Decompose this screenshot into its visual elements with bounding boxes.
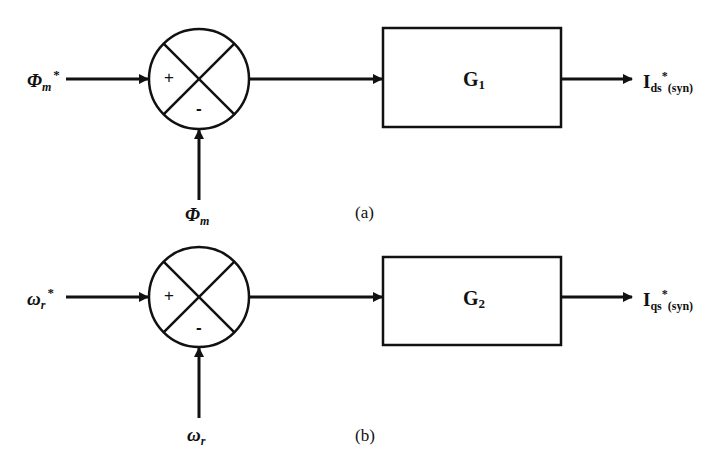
plus-sign-a: + (164, 69, 174, 86)
subscript: ds (650, 81, 661, 95)
output-label-b: Iqs*(syn) (643, 288, 693, 312)
feedback-input-label-b: ωr (187, 425, 205, 447)
panel-b (66, 247, 632, 418)
minus-sign-a: - (196, 100, 202, 117)
caption-a: (a) (355, 204, 374, 221)
block-label-g2: G2 (463, 288, 485, 310)
caption-b: (b) (355, 427, 375, 444)
plus-sign-b: + (164, 287, 174, 304)
block-subscript: 1 (479, 77, 486, 92)
superscript: * (53, 67, 60, 82)
block-subscript: 2 (479, 296, 486, 311)
panel-a (66, 28, 632, 200)
suffix: (syn) (668, 299, 693, 313)
subscript: m (42, 80, 51, 94)
subscript: qs (650, 299, 661, 313)
reference-input-label-b: ωr* (27, 286, 54, 311)
minus-sign-b: - (196, 319, 202, 336)
subscript: r (41, 298, 46, 312)
output-label-a: Ids*(syn) (643, 70, 693, 94)
feedback-input-label-a: Φm (185, 205, 209, 227)
suffix: (syn) (668, 81, 693, 95)
block-name: G (463, 287, 479, 309)
block-name: G (463, 68, 479, 90)
block-label-g1: G1 (463, 69, 485, 91)
subscript: r (201, 434, 206, 448)
block-diagram-canvas (0, 0, 724, 473)
reference-input-label-a: Φm* (27, 68, 60, 93)
subscript: m (200, 214, 209, 228)
omega-symbol: ω (187, 424, 201, 445)
omega-symbol: ω (27, 288, 41, 309)
phi-symbol: Φ (27, 70, 42, 91)
superscript: * (47, 285, 54, 300)
phi-symbol: Φ (185, 204, 200, 225)
